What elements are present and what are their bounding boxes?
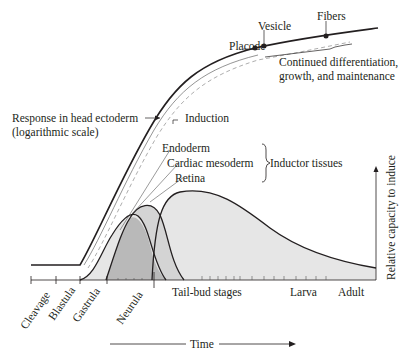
endoderm-label: Endoderm — [162, 142, 210, 154]
time-label: Time — [190, 338, 214, 350]
retina-capacity-area — [152, 191, 376, 280]
stage-larva: Larva — [290, 286, 317, 298]
response-label-2: (logarithmic scale) — [12, 126, 99, 139]
stage-neurula: Neurula — [114, 289, 145, 326]
inductor-brace — [262, 144, 270, 182]
placode-label: Placode — [229, 40, 265, 52]
continued-label-1: Continued differentiation, — [279, 56, 398, 69]
cardiac-mesoderm-label: Cardiac mesoderm — [167, 157, 254, 169]
continued-label-2: growth, and maintenance — [279, 70, 395, 83]
y-axis-arrow-icon — [374, 166, 379, 172]
fibers-label: Fibers — [317, 10, 346, 22]
inductor-tissues-label: Inductor tissues — [270, 157, 343, 169]
time-arrow-icon — [289, 341, 296, 347]
fibers-dot — [324, 34, 329, 39]
y-axis-label: Relative capacity to induce — [385, 155, 398, 280]
stage-cleavage: Cleavage — [18, 289, 53, 332]
stage-adult: Adult — [338, 286, 365, 298]
induction-label: Induction — [185, 112, 229, 124]
vesicle-label: Vesicle — [258, 20, 291, 32]
response-label-1: Response in head ectoderm — [12, 112, 138, 125]
lens-induction-diagram: Placode Vesicle Fibers Continued differe… — [0, 0, 414, 359]
stage-tailbud: Tail-bud stages — [172, 286, 242, 299]
retina-label: Retina — [175, 172, 205, 184]
